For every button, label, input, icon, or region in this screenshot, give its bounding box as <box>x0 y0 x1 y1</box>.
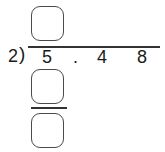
division-bracket: ) <box>19 45 25 63</box>
dividend-digit-8: 8 <box>137 48 147 66</box>
subtraction-line <box>31 107 67 109</box>
dividend-digit-4: 4 <box>97 48 107 66</box>
difference-answer-box[interactable] <box>31 113 64 148</box>
dividend-digit-5: 5 <box>42 48 52 66</box>
quotient-answer-box[interactable] <box>31 6 64 41</box>
divisor: 2 <box>8 47 18 65</box>
product-answer-box[interactable] <box>31 69 64 104</box>
decimal-point: . <box>73 48 78 66</box>
